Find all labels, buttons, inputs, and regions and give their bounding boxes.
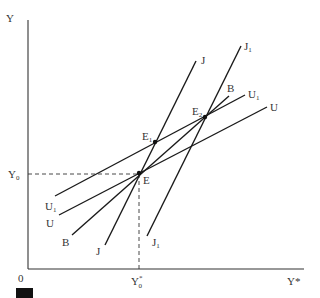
- point-e: [137, 171, 141, 175]
- y0-tick-label: Y0: [8, 168, 20, 182]
- curve-j1: [147, 46, 241, 236]
- diagram-canvas: Y Y* 0 Y0 Y*0 E E1 E2 J J1 B U1 U U1 U B…: [0, 0, 320, 298]
- origin-label: 0: [18, 272, 24, 284]
- curve-j-bottom-label: J: [96, 245, 101, 257]
- y0star-tick-label: Y*0: [131, 274, 143, 290]
- curve-u: [59, 107, 267, 215]
- curve-j: [105, 61, 196, 245]
- point-e2-label: E2: [192, 105, 203, 119]
- point-e-label: E: [143, 174, 150, 186]
- curve-u1: [55, 95, 245, 196]
- curve-u-top-label: U: [270, 101, 278, 113]
- curve-j1-top-label: J1: [244, 40, 252, 54]
- curve-b-top-label: B: [227, 82, 234, 94]
- curve-u1-top-label: U1: [248, 88, 260, 102]
- curve-u1-bottom-label: U1: [45, 200, 57, 214]
- y-axis-label: Y: [6, 12, 14, 24]
- curve-u-bottom-label: U: [46, 217, 54, 229]
- point-e2: [203, 115, 207, 119]
- point-e1: [153, 140, 157, 144]
- point-e1-label: E1: [142, 130, 153, 144]
- figure-marker-block: [16, 288, 33, 298]
- curve-j1-bottom-label: J1: [152, 236, 160, 250]
- curve-b-bottom-label: B: [62, 236, 69, 248]
- x-axis-label: Y*: [287, 275, 300, 287]
- curve-j-top-label: J: [201, 54, 206, 66]
